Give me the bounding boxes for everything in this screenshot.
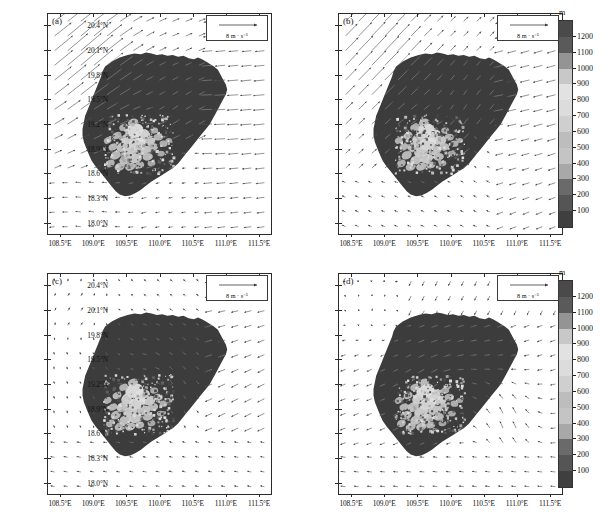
y-tick (44, 173, 47, 174)
x-tick-inner (160, 274, 161, 277)
x-tick (351, 494, 352, 497)
colorbar-band (559, 344, 572, 360)
x-axis-label: 111.0°E (506, 499, 528, 508)
y-axis-label: 20.1°N (87, 46, 108, 55)
x-tick (550, 494, 551, 497)
x-axis-label: 110.0°E (439, 239, 461, 248)
colorbar-tick-label: 800 (577, 95, 589, 104)
colorbar-tick-label: 1000 (577, 63, 593, 72)
y-tick-inner (339, 310, 342, 311)
colorbar-band (559, 132, 572, 148)
x-axis-label: 110.5°E (181, 239, 203, 248)
y-tick-inner (48, 173, 51, 174)
wind-scale-arrow-c (207, 276, 269, 290)
y-tick-inner (339, 149, 342, 150)
colorbar-tick (573, 147, 576, 148)
colorbar-tick (573, 210, 576, 211)
colorbar-band (559, 84, 572, 100)
colorbar-tick (573, 407, 576, 408)
colorbar-tick-label: 100 (577, 466, 589, 475)
colorbar-tick-label: 1100 (577, 307, 593, 316)
y-tick-inner (339, 99, 342, 100)
y-tick-inner (339, 285, 342, 286)
x-axis-label: 110.0°E (148, 239, 170, 248)
x-axis-label: 108.5°E (340, 239, 363, 248)
y-tick (44, 25, 47, 26)
wind-scale-key-a: 8 m · s⁻¹ (206, 15, 268, 41)
x-axis-label: 110.5°E (181, 499, 203, 508)
colorbar-tick (573, 391, 576, 392)
panel-label-a: (a) (52, 16, 62, 26)
x-tick (259, 234, 260, 237)
x-tick (93, 494, 94, 497)
colorbar-strip-bottom (558, 280, 573, 488)
y-tick (44, 285, 47, 286)
colorbar-tick-label: 1000 (577, 323, 593, 332)
y-tick-inner (339, 25, 342, 26)
colorbar-tick-label: 500 (577, 402, 589, 411)
x-tick (484, 494, 485, 497)
y-axis-label: 18.3°N (87, 193, 108, 202)
y-tick-inner (339, 124, 342, 125)
colorbar-tick (573, 115, 576, 116)
colorbar-band (559, 281, 572, 297)
y-axis-label: 20.4°N (87, 21, 108, 30)
colorbar-band (559, 455, 572, 471)
colorbar-band (559, 329, 572, 345)
y-tick-inner (339, 409, 342, 410)
plot-area-a (47, 13, 272, 235)
colorbar-tick (573, 454, 576, 455)
y-axis-label: 19.5°N (87, 355, 108, 364)
y-tick-inner (339, 50, 342, 51)
y-axis-label: 18.6°N (87, 429, 108, 438)
x-axis-label: 110.5°E (472, 499, 494, 508)
colorbar-band (559, 179, 572, 195)
y-tick (44, 223, 47, 224)
wind-scale-key-d: 8 m · s⁻¹ (497, 275, 559, 301)
y-tick (44, 50, 47, 51)
y-tick (335, 310, 338, 311)
y-tick-inner (339, 384, 342, 385)
panel-label-d: (d) (343, 276, 354, 286)
wind-scale-label-b: 8 m · s⁻¹ (498, 32, 558, 39)
y-tick-inner (48, 433, 51, 434)
y-tick (335, 75, 338, 76)
y-tick-inner (339, 173, 342, 174)
wind-scale-label-c: 8 m · s⁻¹ (207, 292, 267, 299)
y-axis-label: 19.2°N (87, 380, 108, 389)
y-tick (335, 433, 338, 434)
y-tick (44, 359, 47, 360)
colorbar-band (559, 297, 572, 313)
colorbar-tick (573, 375, 576, 376)
x-tick-inner (126, 14, 127, 17)
y-tick (44, 433, 47, 434)
x-tick-inner (93, 14, 94, 17)
y-tick (335, 458, 338, 459)
y-tick-inner (48, 335, 51, 336)
x-tick-inner (193, 14, 194, 17)
x-tick (550, 234, 551, 237)
colorbar-tick (573, 131, 576, 132)
y-tick (335, 149, 338, 150)
wind-scale-arrow-a (207, 16, 269, 30)
colorbar-tick-label: 900 (577, 79, 589, 88)
x-tick-inner (384, 274, 385, 277)
y-tick (335, 124, 338, 125)
x-tick (417, 494, 418, 497)
y-tick-inner (48, 384, 51, 385)
x-tick (60, 234, 61, 237)
y-tick-inner (339, 223, 342, 224)
x-tick-inner (451, 274, 452, 277)
figure-root: (a)8 m · s⁻¹20.4°N20.1°N19.8°N19.5°N19.2… (0, 0, 609, 523)
x-tick (417, 234, 418, 237)
y-tick-inner (48, 124, 51, 125)
colorbar-band (559, 164, 572, 180)
colorbar-tick-label: 100 (577, 206, 589, 215)
colorbar-tick-label: 1200 (577, 31, 593, 40)
y-tick (335, 359, 338, 360)
y-axis-label: 18.3°N (87, 453, 108, 462)
colorbar-tick (573, 178, 576, 179)
colorbar-band (559, 195, 572, 211)
y-axis-label: 18.6°N (87, 169, 108, 178)
x-tick (226, 234, 227, 237)
